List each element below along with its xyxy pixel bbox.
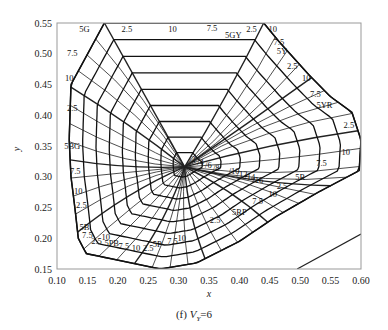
hue-locus (185, 78, 312, 167)
x-tick-label: 0.20 (109, 275, 127, 286)
hue-label: 7.5 (316, 158, 327, 168)
hue-label: 5YR (316, 100, 332, 110)
chroma-label: /16 (252, 175, 263, 185)
hue-label: 7.5 (274, 37, 285, 47)
hue-locus (71, 87, 185, 167)
hue-label: 2.5 (246, 24, 257, 34)
hue-locus (78, 167, 185, 232)
hue-locus (185, 23, 264, 167)
y-tick-label: 0.25 (35, 202, 53, 213)
hue-label: 2.5 (277, 181, 288, 191)
hue-label: 5G (79, 24, 89, 34)
hue-locus (70, 124, 185, 167)
hue-label: 2.5 (210, 215, 221, 225)
hue-label: 7.5 (252, 196, 263, 206)
y-tick-label: 0.50 (35, 48, 53, 59)
x-tick-label: 0.40 (231, 275, 249, 286)
hue-label: 5PB (104, 238, 119, 248)
x-tick-label: 0.50 (291, 275, 309, 286)
hue-locus (78, 71, 184, 167)
plot-area (69, 23, 361, 269)
x-tick-label: 0.15 (79, 275, 97, 286)
y-axis-label: y (11, 146, 22, 152)
hue-label: 10 (177, 233, 186, 243)
hue-label: 7.5 (310, 89, 321, 99)
reference-line (297, 234, 361, 269)
caption-suffix: =6 (200, 308, 212, 320)
y-tick-label: 0.45 (35, 79, 53, 90)
munsell-chart: 0.100.150.200.250.300.350.400.450.500.55… (0, 0, 388, 330)
hue-label: 10 (168, 24, 177, 34)
hue-label: 10 (342, 147, 351, 157)
y-tick-label: 0.40 (35, 110, 53, 121)
hue-label: 2.5 (91, 236, 102, 246)
caption-prefix: (f) (176, 308, 187, 320)
chroma-label: /4 (197, 157, 204, 167)
hue-label: 5RP (232, 207, 247, 217)
hue-label: 7.5 (67, 48, 78, 58)
x-tick-label: 0.25 (139, 275, 157, 286)
hue-label: 2.5 (287, 61, 298, 71)
x-tick-label: 0.30 (170, 275, 188, 286)
hue-label: 10 (269, 24, 278, 34)
hue-label: 5P (153, 239, 162, 249)
hue-label: 5GY (225, 30, 242, 40)
hue-label: 10 (65, 73, 74, 83)
y-tick-label: 0.30 (35, 171, 53, 182)
hue-label: 5BG (64, 141, 80, 151)
hue-label: 10 (74, 186, 83, 196)
chroma-label: /6 (205, 160, 212, 170)
chroma-label: /2 (189, 154, 196, 164)
hue-label: 10 (302, 73, 311, 83)
hue-label: 10 (132, 243, 141, 253)
hue-locus (70, 160, 185, 167)
y-tick-label: 0.35 (35, 141, 53, 152)
x-axis-label: x (206, 288, 212, 299)
hue-locus (71, 167, 185, 178)
chroma-label: /8 (213, 163, 220, 173)
y-tick-label: 0.15 (35, 264, 53, 275)
y-tick-label: 0.55 (35, 18, 53, 29)
x-tick-label: 0.10 (48, 275, 66, 286)
x-tick-label: 0.55 (322, 275, 340, 286)
x-tick-label: 0.60 (352, 275, 370, 286)
hue-label: 2.5 (344, 120, 355, 130)
hue-label: 7.5 (70, 166, 81, 176)
hue-label: 7.5 (207, 23, 218, 33)
hue-label: 2.5 (122, 24, 133, 34)
hue-label: 5Y (277, 46, 287, 56)
hue-label: 5R (295, 172, 305, 182)
hue-label: 7.5 (119, 241, 130, 251)
hue-label: 2.5 (67, 103, 78, 113)
hue-label: 2.5 (76, 200, 87, 210)
hue-label: 7.5 (167, 236, 178, 246)
y-tick-label: 0.20 (35, 233, 53, 244)
hue-locus (185, 91, 325, 167)
x-tick-label: 0.35 (200, 275, 218, 286)
hue-locus (170, 167, 185, 267)
figure-caption: (f) VY=6 (0, 308, 388, 323)
x-tick-label: 0.45 (261, 275, 279, 286)
